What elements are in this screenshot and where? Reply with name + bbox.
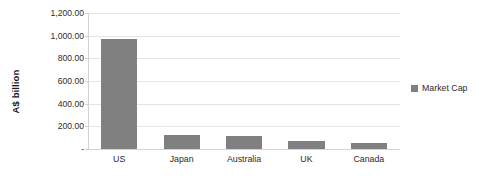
legend: Market Cap <box>411 83 467 93</box>
plot-area <box>88 13 400 149</box>
y-axis-title: A$ billion <box>8 0 24 182</box>
y-axis-tick-label: 1,000.00 <box>26 31 84 41</box>
legend-swatch-icon <box>411 85 418 92</box>
bar <box>288 141 324 149</box>
x-axis-category-label: Japan <box>150 154 212 164</box>
bar-slot <box>275 13 337 149</box>
y-axis-tick-label: 200.00 <box>26 121 84 131</box>
y-axis-tick-labels: 1,200.001,000.00800.00600.00400.00200.00… <box>26 13 84 149</box>
y-axis-tick-label: 800.00 <box>26 53 84 63</box>
y-axis-tick-mark <box>85 149 88 150</box>
bar <box>351 143 387 149</box>
x-axis-category-label: UK <box>275 154 337 164</box>
y-axis-tick-label: - <box>26 144 84 154</box>
bar-slot <box>338 13 400 149</box>
y-axis-tick-label: 600.00 <box>26 76 84 86</box>
y-axis-tick-label: 400.00 <box>26 99 84 109</box>
legend-item-label: Market Cap <box>422 83 467 93</box>
bar-slot <box>213 13 275 149</box>
bar <box>101 39 137 150</box>
bar-chart: A$ billion 1,200.001,000.00800.00600.004… <box>0 0 500 182</box>
bar <box>226 136 262 149</box>
x-axis-baseline <box>88 149 400 150</box>
bar <box>164 135 200 149</box>
y-axis-tick-label: 1,200.00 <box>26 8 84 18</box>
bar-slot <box>88 13 150 149</box>
x-axis-category-label: US <box>88 154 150 164</box>
bar-slot <box>150 13 212 149</box>
y-axis-title-text: A$ billion <box>11 69 22 113</box>
bars-layer <box>88 13 400 149</box>
x-axis-category-label: Australia <box>213 154 275 164</box>
x-axis-category-labels: USJapanAustraliaUKCanada <box>88 154 400 164</box>
x-axis-category-label: Canada <box>338 154 400 164</box>
